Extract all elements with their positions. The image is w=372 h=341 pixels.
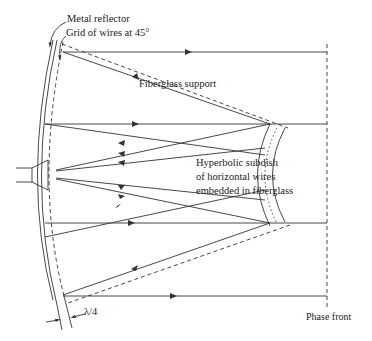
ray-refl-2 — [45, 190, 265, 237]
wire-grid-45deg — [49, 42, 63, 292]
label-fiberglass-support: Fiberglass support — [139, 78, 216, 89]
label-metal-reflector: Metal reflector — [67, 13, 130, 24]
feed-horn — [16, 160, 48, 190]
label-subdish-3: embedded in fiberglass — [196, 185, 293, 196]
lambda-quarter-dimension — [46, 314, 85, 322]
reflector-bottom-ext — [57, 305, 62, 330]
twist-reflector-diagram: Metal reflector Grid of wires at 45° Fib… — [0, 0, 372, 341]
label-phase-front: Phase front — [306, 311, 351, 322]
grid-leader-arrow — [60, 36, 66, 58]
ray-refl-1 — [45, 124, 265, 155]
fiberglass-support-bottom — [68, 225, 290, 303]
label-subdish-2: of horizontal wires — [196, 171, 275, 182]
label-grid-of-wires: Grid of wires at 45° — [66, 27, 150, 38]
label-lambda-quarter: λ/4 — [84, 306, 98, 317]
metal-reflector — [38, 40, 54, 300]
ray-bottom-diagonal — [63, 223, 270, 295]
grid-bottom-ext — [63, 292, 72, 328]
reflector-inner-edge — [42, 40, 58, 305]
label-subdish-1: Hyperbolic subdish — [196, 157, 279, 168]
